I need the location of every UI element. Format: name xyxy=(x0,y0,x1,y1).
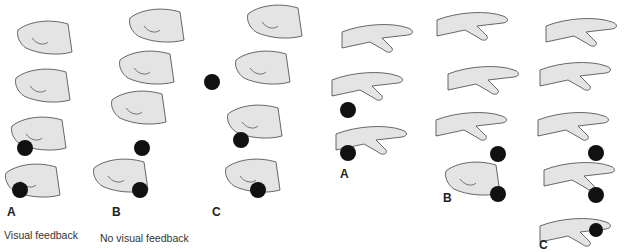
panel-label-right-a: A xyxy=(340,167,349,181)
caption-no-visual-feedback: No visual feedback xyxy=(100,232,189,244)
panel-label-a: A xyxy=(7,205,16,219)
hand-illustrations xyxy=(0,0,638,252)
panel-left-a-hands xyxy=(5,21,72,198)
panel-label-right-b: B xyxy=(443,191,452,205)
panel-label-right-c: C xyxy=(539,238,548,252)
panel-right-c-hands xyxy=(538,19,617,247)
panel-right-a-hands xyxy=(332,25,413,161)
panel-left-c-hands xyxy=(204,5,302,198)
panel-label-b: B xyxy=(112,205,121,219)
caption-visual-feedback: Visual feedback xyxy=(4,229,78,241)
panel-label-c: C xyxy=(212,205,221,219)
hand-grasp-figure: A Visual feedback B No visual feedback C… xyxy=(0,0,638,252)
panel-left-b-hands xyxy=(93,9,184,198)
panel-right-b-hands xyxy=(436,13,519,202)
